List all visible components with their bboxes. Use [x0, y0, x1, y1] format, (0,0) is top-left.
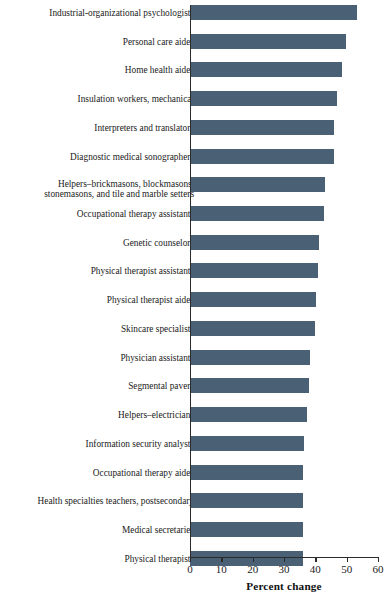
x-tick-label: 0 — [175, 563, 205, 575]
bar-category-label: Diagnostic medical sonographers — [4, 152, 194, 163]
bar-row: Physical therapist aides — [0, 292, 389, 321]
bar — [190, 292, 316, 307]
bar-category-label: Industrial-organizational psychologists — [4, 8, 194, 19]
bar — [190, 321, 315, 336]
bar-category-label: Information security analysts — [4, 439, 194, 450]
bar-category-label: Occupational therapy aides — [4, 468, 194, 479]
bar-row: Helpers–electricians — [0, 407, 389, 436]
x-tick — [284, 557, 285, 562]
bar — [190, 62, 342, 77]
bar — [190, 493, 303, 508]
bar-category-label: Segmental pavers — [4, 381, 194, 392]
x-tick — [378, 557, 379, 562]
bar-row: Personal care aides — [0, 34, 389, 63]
bar-category-label: Interpreters and translators — [4, 123, 194, 134]
x-tick-label: 40 — [300, 563, 330, 575]
bar — [190, 5, 357, 20]
bar-row: Genetic counselors — [0, 235, 389, 264]
bar-row: Skincare specialists — [0, 321, 389, 350]
bar-row: Helpers–brickmasons, blockmasons, stonem… — [0, 177, 389, 206]
bar-row: Interpreters and translators — [0, 120, 389, 149]
bar — [190, 235, 319, 250]
bar — [190, 263, 318, 278]
bar-chart: Industrial-organizational psychologistsP… — [0, 0, 389, 599]
bar — [190, 149, 334, 164]
bar-row: Occupational therapy assistants — [0, 206, 389, 235]
bar-category-label: Physician assistants — [4, 353, 194, 364]
bar-row: Home health aides — [0, 62, 389, 91]
bar-category-label: Helpers–brickmasons, blockmasons, stonem… — [4, 179, 194, 200]
x-tick — [347, 557, 348, 562]
bar-row: Segmental pavers — [0, 378, 389, 407]
x-axis-title: Percent change — [190, 580, 378, 592]
x-tick-label: 20 — [238, 563, 268, 575]
bar-category-label: Personal care aides — [4, 37, 194, 48]
bar-category-label: Occupational therapy assistants — [4, 209, 194, 220]
bar-category-label: Physical therapist aides — [4, 295, 194, 306]
x-tick-label: 60 — [363, 563, 389, 575]
x-tick-label: 30 — [269, 563, 299, 575]
bar — [190, 120, 334, 135]
bar — [190, 350, 310, 365]
bar-category-label: Health specialties teachers, postseconda… — [4, 496, 194, 507]
x-tick — [221, 557, 222, 562]
bar — [190, 206, 324, 221]
bar-category-label: Insulation workers, mechanical — [4, 94, 194, 105]
bar-row: Diagnostic medical sonographers — [0, 149, 389, 178]
y-axis-line — [190, 5, 191, 558]
bar-category-label: Medical secretaries — [4, 525, 194, 536]
bar-category-label: Home health aides — [4, 65, 194, 76]
bar-category-label: Physical therapist assistants — [4, 266, 194, 277]
bar-row: Medical secretaries — [0, 522, 389, 551]
bar — [190, 407, 307, 422]
bar-row: Physical therapist assistants — [0, 263, 389, 292]
bar-category-label: Genetic counselors — [4, 238, 194, 249]
bar-category-label: Physical therapists — [4, 554, 194, 565]
bar-row: Industrial-organizational psychologists — [0, 5, 389, 34]
bar — [190, 378, 309, 393]
bar-row: Occupational therapy aides — [0, 465, 389, 494]
bar — [190, 436, 304, 451]
bar — [190, 177, 325, 192]
plot-area: Industrial-organizational psychologistsP… — [0, 0, 389, 599]
x-tick-label: 10 — [206, 563, 236, 575]
x-tick — [315, 557, 316, 562]
bar — [190, 34, 346, 49]
bar-category-label: Helpers–electricians — [4, 410, 194, 421]
bar-row: Insulation workers, mechanical — [0, 91, 389, 120]
bar — [190, 465, 303, 480]
bar-row: Physician assistants — [0, 350, 389, 379]
bar-category-label: Skincare specialists — [4, 324, 194, 335]
bar-row: Health specialties teachers, postseconda… — [0, 493, 389, 522]
bar-row: Information security analysts — [0, 436, 389, 465]
bar — [190, 522, 303, 537]
x-tick-label: 50 — [332, 563, 362, 575]
bar — [190, 91, 337, 106]
x-tick — [253, 557, 254, 562]
x-tick — [190, 557, 191, 562]
